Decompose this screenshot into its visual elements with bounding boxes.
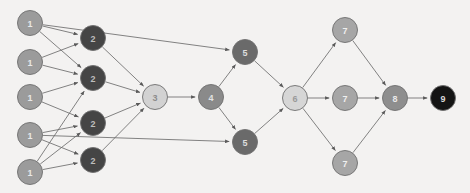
node-circle[interactable] (233, 130, 258, 155)
graph-node[interactable]: 5 (233, 130, 258, 155)
node-circle[interactable] (333, 18, 358, 43)
graph-canvas: 1111122223455677789 (0, 0, 470, 193)
graph-node[interactable]: 1 (18, 160, 43, 185)
graph-edge (219, 65, 236, 87)
node-circle[interactable] (81, 111, 106, 136)
graph-edge (43, 65, 78, 74)
graph-edge (102, 108, 144, 151)
graph-node[interactable]: 7 (333, 151, 358, 176)
graph-edge (42, 44, 78, 58)
graph-node[interactable]: 1 (18, 50, 43, 75)
graph-node[interactable]: 5 (233, 40, 258, 65)
node-circle[interactable] (81, 26, 106, 51)
node-circle[interactable] (18, 11, 43, 36)
node-circle[interactable] (283, 86, 308, 111)
node-circle[interactable] (18, 123, 43, 148)
graph-edge (40, 32, 81, 68)
graph-node[interactable]: 1 (18, 123, 43, 148)
graph-edge (42, 102, 78, 117)
node-circle[interactable] (18, 85, 43, 110)
node-circle[interactable] (431, 86, 456, 111)
node-circle[interactable] (81, 66, 106, 91)
node-circle[interactable] (233, 40, 258, 65)
graph-edge (102, 47, 143, 86)
graph-node[interactable]: 2 (81, 148, 106, 173)
node-circle[interactable] (18, 50, 43, 75)
graph-node[interactable]: 3 (143, 85, 168, 110)
graph-edge (353, 40, 386, 85)
node-circle[interactable] (333, 86, 358, 111)
graph-edge (42, 140, 78, 154)
graph-edge (105, 82, 140, 93)
node-circle[interactable] (333, 151, 358, 176)
graph-edge (255, 108, 283, 133)
graph-edge (219, 107, 236, 129)
node-circle[interactable] (81, 148, 106, 173)
graph-node[interactable]: 6 (283, 86, 308, 111)
graph-node[interactable]: 7 (333, 86, 358, 111)
graph-node[interactable]: 1 (18, 85, 43, 110)
graph-node[interactable]: 1 (18, 11, 43, 36)
graph-node[interactable]: 2 (81, 26, 106, 51)
graph-edge (353, 110, 386, 152)
graph-edge (105, 103, 141, 118)
graph-edge (303, 108, 336, 150)
graph-edge (43, 163, 78, 170)
graph-node[interactable]: 4 (199, 85, 224, 110)
node-circle[interactable] (18, 160, 43, 185)
graph-diagram: 1111122223455677789 (0, 0, 470, 193)
graph-node[interactable]: 2 (81, 111, 106, 136)
graph-node[interactable]: 8 (383, 86, 408, 111)
graph-edge (42, 83, 78, 94)
nodes-group: 1111122223455677789 (18, 11, 456, 185)
node-circle[interactable] (383, 86, 408, 111)
node-circle[interactable] (199, 85, 224, 110)
graph-node[interactable]: 7 (333, 18, 358, 43)
graph-edge (303, 43, 336, 88)
graph-node[interactable]: 2 (81, 66, 106, 91)
graph-edge (255, 61, 284, 88)
graph-node[interactable]: 9 (431, 86, 456, 111)
node-circle[interactable] (143, 85, 168, 110)
